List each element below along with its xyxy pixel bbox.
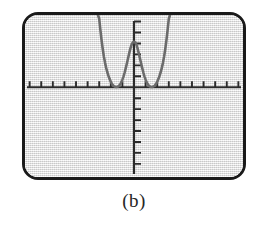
figure-caption: (b) [0, 190, 268, 212]
figure-panel: (b) [0, 0, 268, 234]
calculator-screen [22, 12, 246, 180]
graph-plot [25, 15, 243, 177]
